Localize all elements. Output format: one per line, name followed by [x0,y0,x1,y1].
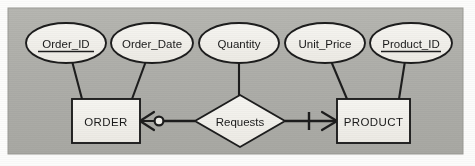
entity-order[interactable]: ORDER [72,99,140,143]
attribute-quantity[interactable]: Quantity [199,23,279,63]
attribute-order-id-label: Order_ID [42,38,89,50]
relationship-requests-label: Requests [216,116,265,128]
attribute-order-date-label: Order_Date [122,38,182,50]
entity-product[interactable]: PRODUCT [337,99,410,143]
attribute-product-id-label: Product_ID [382,38,440,50]
attribute-order-date[interactable]: Order_Date [111,23,193,63]
optionality-circle-order [155,117,164,126]
attribute-unit-price-label: Unit_Price [298,38,351,50]
attribute-order-id[interactable]: Order_ID [26,23,106,63]
er-diagram-canvas: Order_ID Order_Date Quantity Unit_Price … [0,0,475,166]
entity-order-label: ORDER [84,116,128,128]
attribute-product-id[interactable]: Product_ID [370,23,452,63]
attribute-unit-price[interactable]: Unit_Price [285,23,365,63]
er-diagram-figure: Order_ID Order_Date Quantity Unit_Price … [0,0,475,166]
entity-product-label: PRODUCT [344,116,404,128]
attribute-quantity-label: Quantity [218,38,261,50]
